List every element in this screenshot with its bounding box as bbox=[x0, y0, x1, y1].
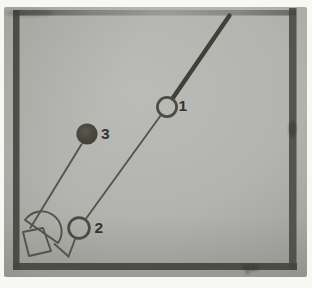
ball-2-label: 2 bbox=[95, 219, 104, 236]
frame-right-edge bbox=[289, 8, 297, 270]
ball-3-marker bbox=[76, 123, 97, 144]
launcher-base bbox=[23, 228, 51, 256]
frame-top-edge bbox=[13, 10, 296, 16]
ball-3-label: 3 bbox=[101, 125, 110, 142]
cue-stick bbox=[173, 16, 230, 99]
frame-left-edge bbox=[13, 10, 20, 270]
ball-1-marker bbox=[157, 97, 176, 116]
diagram-canvas: 1 2 3 bbox=[0, 0, 312, 288]
smudge-top-left-frame bbox=[6, 10, 54, 17]
trajectory-line-3-to-launcher bbox=[30, 144, 82, 229]
table-frame bbox=[13, 8, 297, 270]
speck-bottom bbox=[246, 271, 249, 274]
print-artifacts bbox=[6, 10, 296, 275]
ball-2-marker bbox=[69, 218, 90, 239]
ball-1-label: 1 bbox=[179, 97, 188, 114]
smudge-right-frame bbox=[289, 121, 296, 138]
rebound-path bbox=[54, 238, 76, 257]
smudge-bottom-frame bbox=[242, 264, 260, 271]
scanned-page: 1 2 3 bbox=[0, 0, 312, 288]
